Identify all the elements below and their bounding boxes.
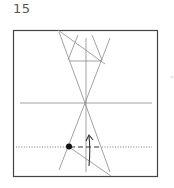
stray-mark (171, 76, 172, 77)
fold-arrow-icon (89, 136, 90, 166)
origami-diagram (0, 0, 174, 188)
left-lower-diagonal (59, 103, 85, 170)
top-diagonal-crease (58, 30, 105, 64)
inner-right-crease (92, 35, 102, 60)
reference-dot (66, 144, 72, 150)
left-upper-diagonal (59, 32, 85, 103)
